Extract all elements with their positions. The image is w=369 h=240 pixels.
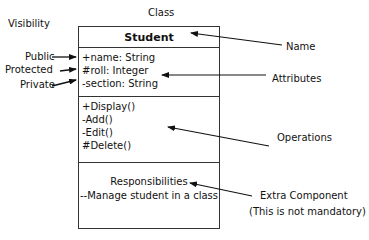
operations-compartment: +Display() -Add() -Edit() #Delete() bbox=[79, 97, 219, 163]
attribute-item: -section: String bbox=[82, 77, 219, 90]
attribute-item: +name: String bbox=[82, 51, 219, 64]
protected-label: Protected bbox=[5, 64, 53, 76]
extra-component-annotation: Extra Component bbox=[260, 190, 348, 202]
operation-item: -Edit() bbox=[82, 126, 219, 139]
attribute-item: #roll: Integer bbox=[82, 64, 219, 77]
operation-item: -Add() bbox=[82, 113, 219, 126]
class-name-compartment: Student bbox=[79, 27, 219, 48]
visibility-label: Visibility bbox=[8, 18, 50, 30]
operation-item: +Display() bbox=[82, 100, 219, 113]
public-label: Public bbox=[25, 51, 55, 63]
attributes-annotation: Attributes bbox=[272, 73, 321, 85]
attributes-compartment: +name: String #roll: Integer -section: S… bbox=[79, 48, 219, 97]
protected-arrow-icon bbox=[60, 69, 76, 71]
operation-item: #Delete() bbox=[82, 139, 219, 152]
private-label: Private bbox=[20, 79, 55, 91]
responsibilities-text: --Manage student in a class bbox=[79, 189, 219, 203]
class-label: Class bbox=[148, 7, 174, 19]
responsibilities-heading: Responsibilities bbox=[79, 175, 219, 189]
class-box: Student +name: String #roll: Integer -se… bbox=[78, 26, 220, 229]
private-arrow-icon bbox=[52, 80, 76, 86]
name-annotation: Name bbox=[286, 41, 316, 53]
extra-component-note: (This is not mandatory) bbox=[249, 206, 366, 218]
class-name: Student bbox=[124, 31, 173, 44]
operations-annotation: Operations bbox=[277, 132, 332, 144]
responsibilities-compartment: Responsibilities --Manage student in a c… bbox=[79, 163, 219, 228]
